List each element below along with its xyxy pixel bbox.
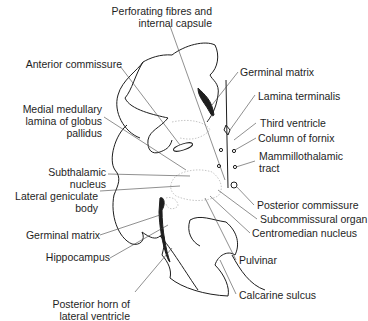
label-pulvinar: Pulvinar: [239, 254, 277, 266]
label-medial-medullary-lamina: Medial medullary lamina of globus pallid…: [10, 103, 102, 139]
brain-section-diagram: Perforating fibres and internal capsule …: [0, 0, 368, 321]
label-posterior-horn: Posterior horn of lateral ventricle: [20, 298, 130, 321]
label-germinal-matrix-left: Germinal matrix: [10, 229, 100, 241]
label-lateral-geniculate-body: Lateral geniculate body: [2, 190, 98, 214]
label-column-of-fornix: Column of fornix: [258, 132, 334, 144]
label-mammillothalamic-tract: Mammillothalamic tract: [259, 150, 343, 174]
label-centromedian-nucleus: Centromedian nucleus: [252, 227, 357, 239]
label-anterior-commissure: Anterior commissure: [10, 58, 122, 70]
label-lamina-terminalis: Lamina terminalis: [258, 90, 340, 102]
label-calcarine-sulcus: Calcarine sulcus: [239, 289, 316, 301]
label-subcommissural-organ: Subcommissural organ: [260, 213, 367, 225]
label-germinal-matrix-right: Germinal matrix: [240, 66, 314, 78]
label-posterior-commissure: Posterior commissure: [257, 199, 359, 211]
label-subthalamic-nucleus: Subthalamic nucleus: [10, 166, 106, 190]
label-third-ventricle: Third ventricle: [260, 117, 326, 129]
label-perforating-fibres: Perforating fibres and internal capsule: [104, 5, 212, 29]
label-hippocampus: Hippocampus: [10, 251, 110, 263]
